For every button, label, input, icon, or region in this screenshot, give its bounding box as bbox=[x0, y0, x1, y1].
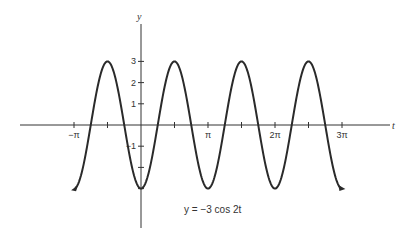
y-tick-label: 2 bbox=[131, 78, 136, 88]
axes bbox=[20, 24, 390, 228]
y-axis-label: y bbox=[136, 11, 142, 22]
y-tick-label: 3 bbox=[131, 56, 136, 66]
right-arrow-icon bbox=[338, 185, 345, 191]
equation-label: y = −3 cos 2t bbox=[184, 204, 241, 215]
t-axis-label: t bbox=[392, 120, 395, 131]
x-tick-label: 3π bbox=[336, 130, 347, 140]
x-tick-label: 2π bbox=[269, 130, 280, 140]
x-tick-label: π bbox=[205, 130, 211, 140]
left-arrow-icon bbox=[71, 185, 78, 191]
tick-labels: −ππ2π3π321−1 bbox=[68, 56, 347, 151]
x-tick-label: −π bbox=[68, 130, 79, 140]
y-tick-label: 1 bbox=[131, 99, 136, 109]
cosine-graph: −ππ2π3π321−1 t y y = −3 cos 2t bbox=[0, 0, 414, 237]
